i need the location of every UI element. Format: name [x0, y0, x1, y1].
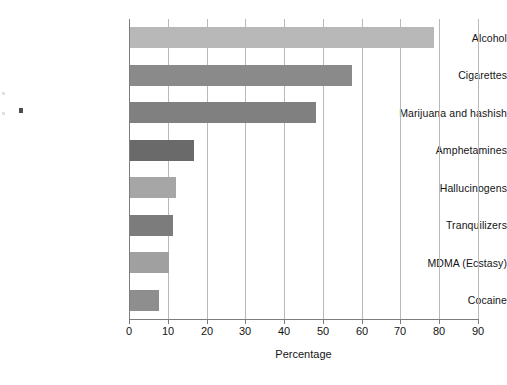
x-axis-tick-label: 40 — [264, 325, 304, 337]
x-axis-tick-label: 0 — [109, 325, 149, 337]
x-axis-tick-label: 80 — [419, 325, 459, 337]
x-axis-tick-label: 90 — [458, 325, 498, 337]
x-axis-line — [129, 319, 479, 320]
bar — [130, 65, 352, 86]
bar — [130, 177, 176, 198]
x-axis-tick — [478, 320, 479, 324]
gridline — [478, 19, 479, 319]
scan-artifact — [2, 112, 5, 115]
x-axis-tick — [439, 320, 440, 324]
x-axis-tick-label: 20 — [187, 325, 227, 337]
bar — [130, 27, 434, 48]
bar — [130, 102, 316, 123]
x-axis-tick — [207, 320, 208, 324]
x-axis-tick — [362, 320, 363, 324]
x-axis-tick — [323, 320, 324, 324]
x-axis-title: Percentage — [129, 348, 478, 360]
bar — [130, 290, 159, 311]
scan-artifact — [19, 108, 23, 113]
x-axis-tick — [245, 320, 246, 324]
bar-chart: AlcoholCigarettesMarijuana and hashishAm… — [0, 0, 507, 385]
bar — [130, 140, 194, 161]
bars-container — [129, 19, 478, 319]
bar — [130, 252, 169, 273]
x-axis-tick-label: 70 — [380, 325, 420, 337]
x-axis-tick — [129, 320, 130, 324]
x-axis-tick-label: 50 — [303, 325, 343, 337]
x-axis-tick-label: 30 — [225, 325, 265, 337]
x-axis-tick-label: 60 — [342, 325, 382, 337]
x-axis-tick — [284, 320, 285, 324]
x-axis-tick — [400, 320, 401, 324]
x-axis-tick-label: 10 — [148, 325, 188, 337]
x-axis-tick — [168, 320, 169, 324]
scan-artifact — [2, 92, 5, 95]
bar — [130, 215, 173, 236]
